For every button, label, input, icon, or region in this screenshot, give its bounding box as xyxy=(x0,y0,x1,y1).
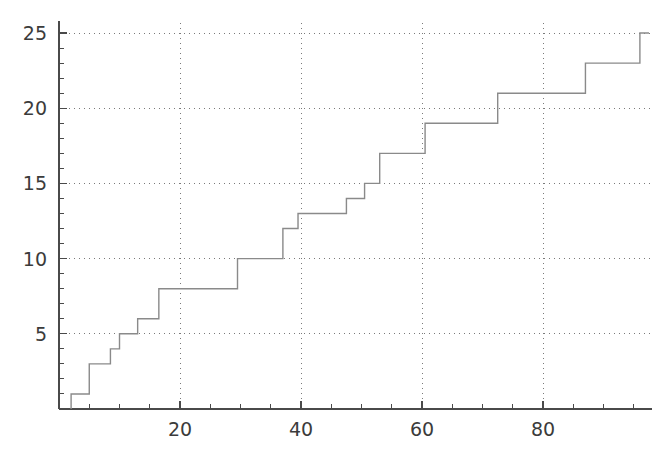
y-tick-label: 10 xyxy=(23,248,47,270)
y-tick-label: 5 xyxy=(35,323,47,345)
x-tick-label: 60 xyxy=(410,418,434,440)
data-series-cumulative-count xyxy=(71,33,649,409)
y-tick-label: 20 xyxy=(23,97,47,119)
chart-canvas: 20406080510152025 xyxy=(0,0,667,460)
gridlines-group xyxy=(59,21,652,409)
x-tick-label: 40 xyxy=(289,418,313,440)
y-tick-label: 25 xyxy=(23,22,47,44)
x-tick-label: 20 xyxy=(168,418,192,440)
data-series-group xyxy=(71,33,649,409)
tick-labels-group: 20406080510152025 xyxy=(23,22,555,440)
major-ticks-group xyxy=(59,33,543,409)
y-tick-label: 15 xyxy=(23,172,47,194)
minor-ticks-group xyxy=(59,48,634,409)
x-tick-label: 80 xyxy=(531,418,555,440)
step-chart: 20406080510152025 xyxy=(0,0,667,460)
axis-lines-group xyxy=(59,21,652,409)
